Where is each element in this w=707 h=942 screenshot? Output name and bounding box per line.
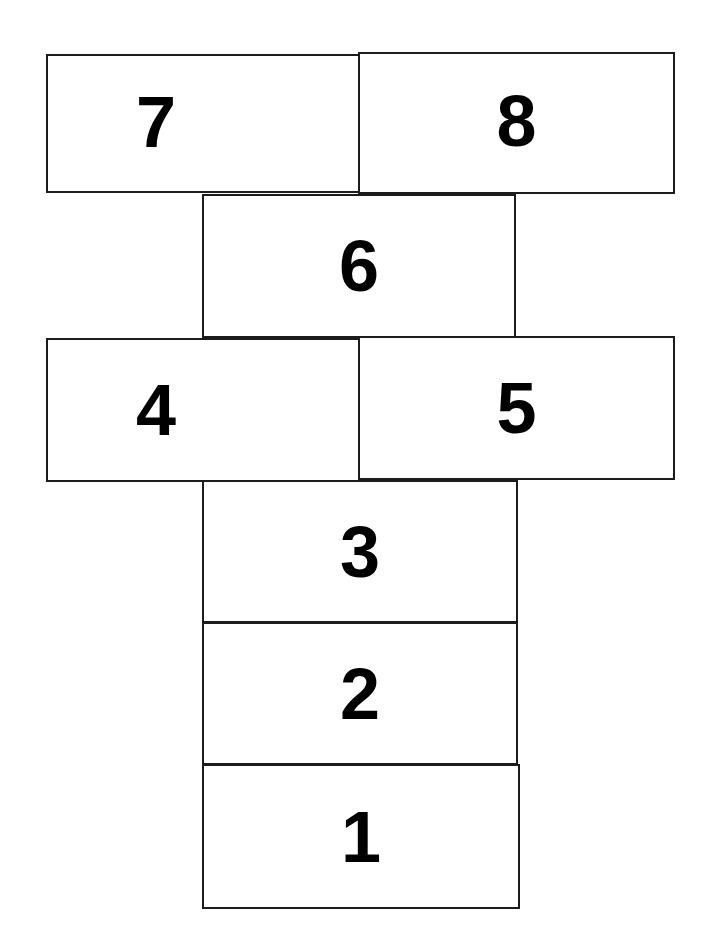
hopscotch-cell-1[interactable]: 1 — [202, 764, 520, 909]
hopscotch-cell-3-label: 3 — [340, 516, 380, 588]
hopscotch-cell-8[interactable]: 8 — [358, 52, 675, 194]
hopscotch-cell-6[interactable]: 6 — [202, 194, 516, 338]
hopscotch-cell-4[interactable]: 4 — [46, 338, 360, 482]
hopscotch-cell-2-label: 2 — [340, 658, 380, 730]
page-root: 7 8 6 4 5 3 2 1 — [0, 0, 707, 942]
hopscotch-cell-7[interactable]: 7 — [46, 54, 360, 193]
hopscotch-court: 7 8 6 4 5 3 2 1 — [0, 0, 707, 942]
hopscotch-cell-1-label: 1 — [341, 801, 381, 873]
hopscotch-cell-4-label: 4 — [136, 374, 176, 446]
hopscotch-cell-3[interactable]: 3 — [202, 480, 518, 623]
hopscotch-cell-6-label: 6 — [339, 230, 379, 302]
hopscotch-cell-8-label: 8 — [496, 85, 536, 157]
hopscotch-cell-2[interactable]: 2 — [202, 622, 518, 765]
hopscotch-cell-5[interactable]: 5 — [358, 336, 675, 480]
hopscotch-cell-5-label: 5 — [496, 372, 536, 444]
hopscotch-cell-7-label: 7 — [136, 86, 176, 158]
